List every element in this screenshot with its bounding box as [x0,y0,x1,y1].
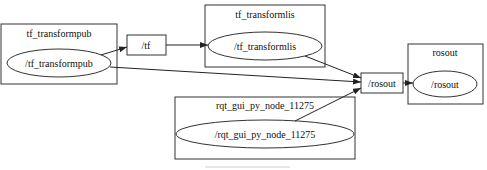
node-label: /rqt_gui_py_node_11275 [215,129,316,140]
cluster-label: tf_transformlis [235,9,295,20]
topic-label: /rosout [368,78,396,89]
cluster-rosout[interactable]: rosout /rosout [408,44,483,104]
cluster-label: tf_transformpub [27,28,92,39]
ros-graph-canvas: tf_transformpub /tf_transformpub /tf tf_… [0,0,487,170]
cluster-label: rosout [433,47,458,58]
node-label: /tf_transformpub [25,58,93,69]
faint-caption [205,166,290,168]
topic-rosout[interactable]: /rosout [361,73,403,93]
topic-label: /tf [142,40,152,51]
node-label: /rosout [431,79,459,90]
node-label: /tf_transformlis [234,41,296,52]
topic-tf[interactable]: /tf [127,35,166,55]
cluster-label: rqt_gui_py_node_11275 [216,100,314,111]
cluster-tf-transformlis[interactable]: tf_transformlis /tf_transformlis [205,5,325,67]
edge-pub-to-rosout[interactable] [110,67,361,82]
cluster-rqt-gui[interactable]: rqt_gui_py_node_11275 /rqt_gui_py_node_1… [175,97,355,159]
edge-pub-to-tf[interactable] [101,47,127,55]
cluster-tf-transformpub[interactable]: tf_transformpub /tf_transformpub [1,24,117,84]
